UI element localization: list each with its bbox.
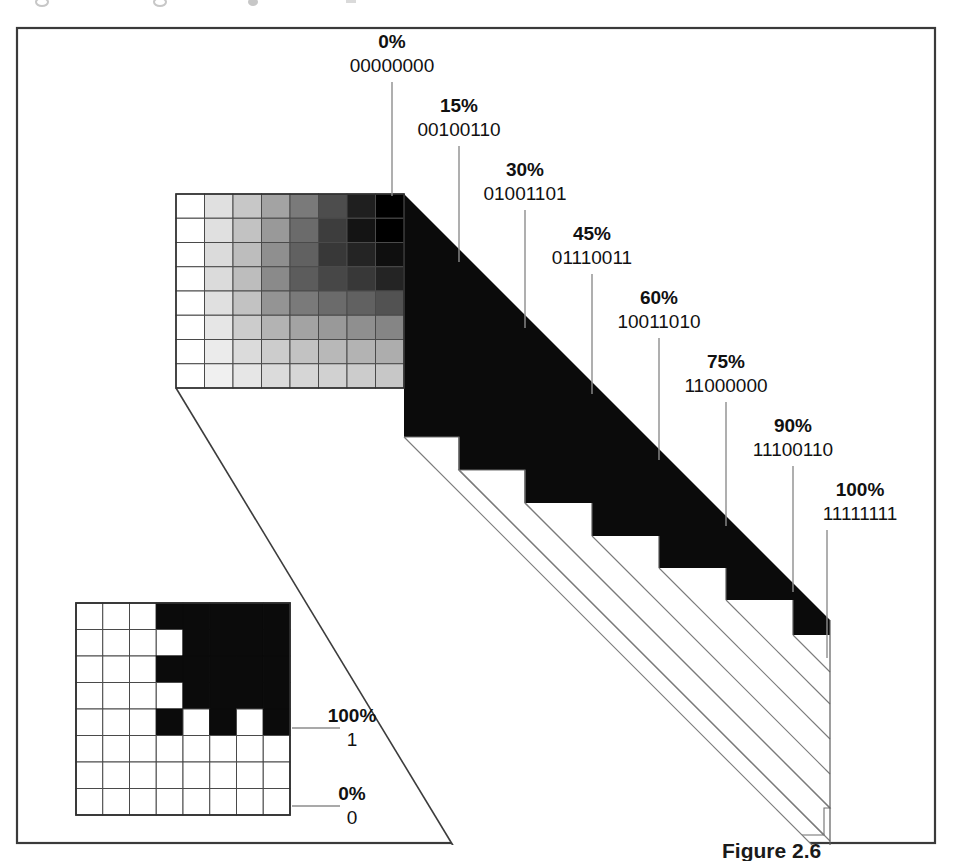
bitmap-cell-on xyxy=(183,630,210,657)
bitmap-cell-on xyxy=(263,683,290,710)
gray-cell xyxy=(290,364,319,388)
gray-cell xyxy=(347,364,376,388)
gray-cell xyxy=(233,218,262,242)
bitmap-cell-off xyxy=(183,762,210,789)
bitmap-cell-off xyxy=(156,789,183,816)
gray-cell xyxy=(376,218,405,242)
bitmap-cell-off xyxy=(130,656,157,683)
gray-cell xyxy=(176,340,205,364)
bitmap-cell-on xyxy=(237,656,264,683)
bitmap-cell-on xyxy=(210,709,237,736)
callout-percent-label: 30% xyxy=(506,159,544,180)
bitmap-cell-off xyxy=(237,789,264,816)
gray-cell xyxy=(205,218,234,242)
bitmap-cell-off xyxy=(103,656,130,683)
bitmap-cell-off xyxy=(263,736,290,763)
gray-cell xyxy=(347,243,376,267)
bitmap-cell-off xyxy=(76,789,103,816)
bitmap-cell-off xyxy=(130,736,157,763)
gray-cell xyxy=(205,267,234,291)
bitmap-cell-off xyxy=(76,656,103,683)
gray-cell xyxy=(233,194,262,218)
gray-cell xyxy=(290,291,319,315)
gray-cell xyxy=(176,291,205,315)
gray-cell xyxy=(290,243,319,267)
bitmap-cell-on xyxy=(156,603,183,630)
bitmap-cell-on xyxy=(263,709,290,736)
bitmap-cell-on xyxy=(183,683,210,710)
callout-binary-label: 11111111 xyxy=(823,503,898,524)
bitmap-cell-off xyxy=(130,789,157,816)
gray-cell xyxy=(205,194,234,218)
gray-cell xyxy=(347,315,376,339)
bitmap-cell-off xyxy=(237,736,264,763)
inset-percent-label: 0% xyxy=(338,783,366,804)
gray-cell xyxy=(319,315,348,339)
bitmap-cell-off xyxy=(76,709,103,736)
bitmap-cell-off xyxy=(103,603,130,630)
bitmap-cell-on xyxy=(210,683,237,710)
bitmap-cell-on xyxy=(237,683,264,710)
gray-cell xyxy=(262,243,291,267)
figure-root: 0%0000000015%0010011030%0100110145%01110… xyxy=(0,0,958,861)
bitmap-cell-off xyxy=(156,630,183,657)
gray-cell xyxy=(347,340,376,364)
inset-bit-label: 1 xyxy=(347,729,358,750)
bitmap-cell-on xyxy=(237,630,264,657)
gray-cell xyxy=(205,291,234,315)
gray-cell xyxy=(376,194,405,218)
bitmap-cell-off xyxy=(210,762,237,789)
callout-binary-label: 00100110 xyxy=(417,119,500,140)
gray-cell xyxy=(376,267,405,291)
gray-cell xyxy=(347,194,376,218)
callout-binary-label: 01110011 xyxy=(552,247,632,268)
bitmap-cell-off xyxy=(130,683,157,710)
callout-percent-label: 0% xyxy=(378,31,406,52)
bitmap-cell-off xyxy=(103,630,130,657)
gray-cell xyxy=(319,243,348,267)
bitmap-cell-off xyxy=(183,736,210,763)
gray-cell xyxy=(205,315,234,339)
gray-cell xyxy=(233,243,262,267)
gray-cell xyxy=(233,291,262,315)
gray-cell xyxy=(290,267,319,291)
inset-percent-label: 100% xyxy=(328,705,377,726)
inset-bit-label: 0 xyxy=(347,807,358,828)
gray-cell xyxy=(319,340,348,364)
bitmap-cell-on xyxy=(263,603,290,630)
gray-cell xyxy=(176,218,205,242)
bitmap-cell-off xyxy=(130,603,157,630)
gray-cell xyxy=(205,243,234,267)
bitmap-cell-off xyxy=(76,736,103,763)
grayscale-cell-grid xyxy=(176,194,404,388)
gray-cell xyxy=(347,267,376,291)
bitmap-cell-off xyxy=(210,736,237,763)
figure-canvas: 0%0000000015%0010011030%0100110145%01110… xyxy=(0,0,958,861)
gray-cell xyxy=(176,243,205,267)
bitmap-cell-off xyxy=(103,789,130,816)
callout-percent-label: 15% xyxy=(440,95,478,116)
bitmap-cell-off xyxy=(156,683,183,710)
gray-cell xyxy=(176,267,205,291)
figure-caption: Figure 2.6 xyxy=(722,839,821,861)
callout-percent-label: 60% xyxy=(640,287,678,308)
bitmap-cell-off xyxy=(263,789,290,816)
bitmap-cell-off xyxy=(76,683,103,710)
callout-binary-label: 10011010 xyxy=(617,311,700,332)
bitmap-cell-off xyxy=(130,630,157,657)
gray-cell xyxy=(290,194,319,218)
gray-cell xyxy=(233,340,262,364)
callout-binary-label: 00000000 xyxy=(350,55,435,76)
gray-cell xyxy=(376,364,405,388)
gray-cell xyxy=(205,340,234,364)
gray-cell xyxy=(262,315,291,339)
bitmap-cell-on xyxy=(183,656,210,683)
gray-cell xyxy=(290,315,319,339)
bitmap-cell-off xyxy=(183,789,210,816)
bitmap-cell-off xyxy=(237,762,264,789)
gray-cell xyxy=(262,340,291,364)
bitmap-cell-off xyxy=(130,709,157,736)
bitmap-cell-off xyxy=(183,709,210,736)
gray-cell xyxy=(262,364,291,388)
bitmap-cell-off xyxy=(263,762,290,789)
